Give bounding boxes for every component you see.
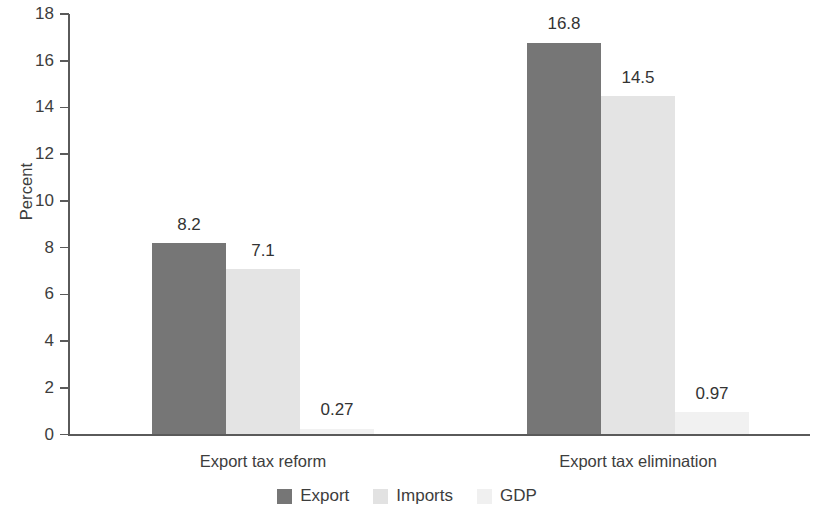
bar-value-label: 14.5 bbox=[583, 69, 693, 86]
y-axis-tick-label: 6 bbox=[0, 285, 54, 302]
y-axis-tick-label: 10 bbox=[0, 192, 54, 209]
y-axis-tick bbox=[60, 200, 69, 202]
bar-export-1 bbox=[152, 243, 226, 435]
bar-export-2 bbox=[527, 43, 601, 435]
y-axis-tick-label: 8 bbox=[0, 239, 54, 256]
y-axis-tick-label: 12 bbox=[0, 145, 54, 162]
legend-label: Export bbox=[300, 486, 349, 506]
y-axis-tick bbox=[60, 340, 69, 342]
bar-value-label: 7.1 bbox=[208, 242, 318, 259]
bar-value-label: 0.97 bbox=[657, 385, 767, 402]
legend-swatch-icon bbox=[277, 489, 292, 504]
bar-value-label: 8.2 bbox=[134, 216, 244, 233]
legend-item-export[interactable]: Export bbox=[277, 486, 349, 506]
y-axis-tick-label: 4 bbox=[0, 332, 54, 349]
y-axis-tick bbox=[60, 247, 69, 249]
x-axis-category-label: Export tax reform bbox=[123, 452, 403, 471]
y-axis-tick bbox=[60, 153, 69, 155]
y-axis-tick bbox=[60, 13, 69, 15]
y-axis-line bbox=[68, 14, 70, 435]
y-axis-tick-label: 18 bbox=[0, 5, 54, 22]
bar-value-label: 16.8 bbox=[509, 15, 619, 32]
y-axis-tick bbox=[60, 60, 69, 62]
y-axis-tick bbox=[60, 387, 69, 389]
x-axis-line bbox=[68, 434, 810, 436]
legend-swatch-icon bbox=[373, 489, 388, 504]
bar-gdp-2 bbox=[675, 412, 749, 435]
legend-label: Imports bbox=[396, 486, 453, 506]
bar-value-label: 0.27 bbox=[282, 401, 392, 418]
y-axis-tick-label: 0 bbox=[0, 426, 54, 443]
legend-item-gdp[interactable]: GDP bbox=[477, 486, 537, 506]
legend-item-imports[interactable]: Imports bbox=[373, 486, 453, 506]
y-axis-tick bbox=[60, 294, 69, 296]
bar-chart: Percent 024681012141618 8.27.10.2716.814… bbox=[0, 0, 814, 515]
chart-legend: ExportImportsGDP bbox=[0, 486, 814, 506]
y-axis-tick bbox=[60, 107, 69, 109]
x-axis-category-label: Export tax elimination bbox=[498, 452, 778, 471]
legend-label: GDP bbox=[500, 486, 537, 506]
legend-swatch-icon bbox=[477, 489, 492, 504]
y-axis-tick-label: 14 bbox=[0, 98, 54, 115]
y-axis-tick-label: 2 bbox=[0, 379, 54, 396]
y-axis-tick-label: 16 bbox=[0, 52, 54, 69]
